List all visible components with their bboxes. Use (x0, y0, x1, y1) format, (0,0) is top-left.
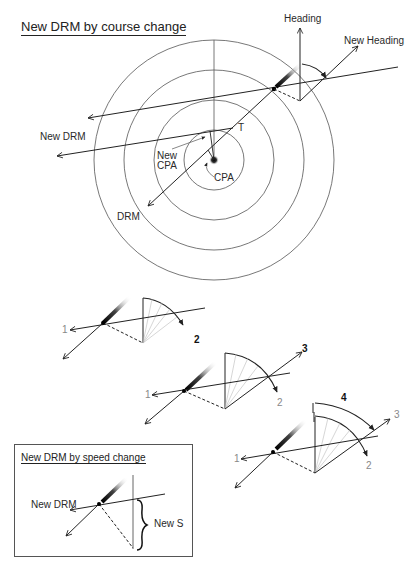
step3-vector3-label: 3 (394, 409, 400, 420)
speed-box-title: New DRM by speed change (21, 452, 146, 464)
step2-vector2-label: 2 (277, 397, 283, 408)
new-drm-label: New DRM (40, 131, 86, 142)
new-heading-label: New Heading (344, 35, 404, 46)
new-s-label: New S (154, 518, 183, 529)
speed-new-drm-label: New DRM (31, 499, 77, 510)
step3-vector2-label: 2 (366, 460, 372, 471)
drm-label: DRM (117, 211, 140, 222)
step-diagram-2 (145, 352, 302, 424)
cpa-pointer (206, 163, 214, 177)
drm-line (148, 89, 274, 206)
course-change-arc (302, 64, 326, 78)
step2-vector1-label: 1 (145, 389, 151, 400)
new-cpa-pointer (172, 137, 205, 149)
step1-vector1-label: 1 (62, 324, 68, 335)
step1-bold-label: 2 (194, 334, 200, 345)
step-diagram-3 (235, 403, 390, 488)
t-label: T (238, 122, 244, 133)
dashed-relative (274, 89, 300, 101)
step3-bold-label: 4 (341, 392, 347, 403)
step3-vector1-label: 1 (234, 453, 240, 464)
page-title: New DRM by course change (21, 19, 186, 36)
step2-bold-label: 3 (302, 343, 308, 354)
heading-label: Heading (284, 13, 321, 24)
new-heading-line (300, 46, 358, 101)
cpa-label: CPA (214, 172, 234, 183)
step-diagram-1 (63, 297, 205, 359)
new-cpa-label-line2: CPA (157, 160, 177, 171)
